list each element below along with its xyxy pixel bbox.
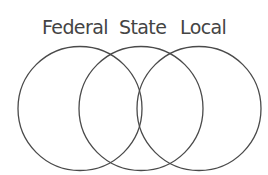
circle-local	[137, 47, 261, 171]
circle-federal	[18, 47, 142, 171]
venn-circles	[0, 0, 268, 175]
circle-state	[79, 47, 203, 171]
